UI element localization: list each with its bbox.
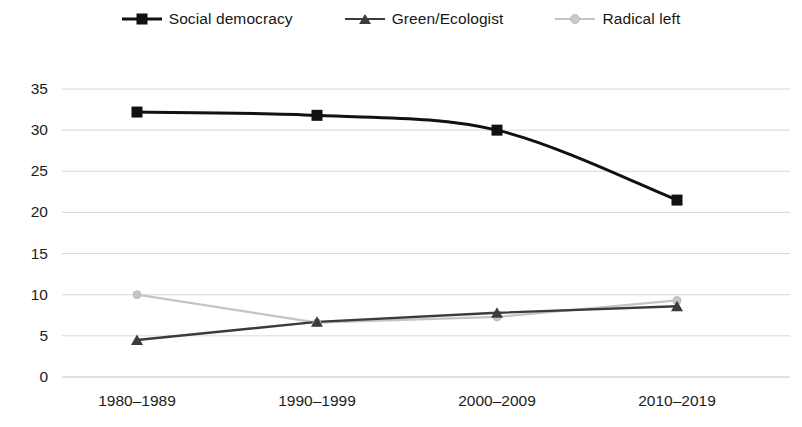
y-axis-tick-label: 5 xyxy=(8,327,48,345)
data-point-square xyxy=(492,125,503,136)
y-axis-tick-label: 35 xyxy=(8,80,48,98)
data-point-square xyxy=(312,110,323,121)
line-chart: Social democracy Green/Ecologist Radical… xyxy=(0,0,802,427)
y-axis-tick-label: 15 xyxy=(8,245,48,263)
data-point-square xyxy=(672,195,683,206)
data-point-square xyxy=(132,107,143,118)
data-point-circle xyxy=(133,291,141,299)
series-lines xyxy=(137,112,677,340)
y-axis-tick-label: 20 xyxy=(8,203,48,221)
series-line-social-democracy xyxy=(137,112,677,200)
y-axis-tick-label: 10 xyxy=(8,286,48,304)
x-axis-tick-label: 1980–1989 xyxy=(98,392,176,410)
x-axis-tick-label: 2010–2019 xyxy=(638,392,716,410)
y-axis-tick-label: 25 xyxy=(8,162,48,180)
plot-area xyxy=(0,0,802,427)
x-axis-tick-label: 2000–2009 xyxy=(458,392,536,410)
gridlines xyxy=(62,89,790,377)
series-line-green-ecologist xyxy=(137,306,677,340)
x-axis-tick-label: 1990–1999 xyxy=(278,392,356,410)
y-axis-tick-label: 0 xyxy=(8,368,48,386)
y-axis-tick-label: 30 xyxy=(8,121,48,139)
